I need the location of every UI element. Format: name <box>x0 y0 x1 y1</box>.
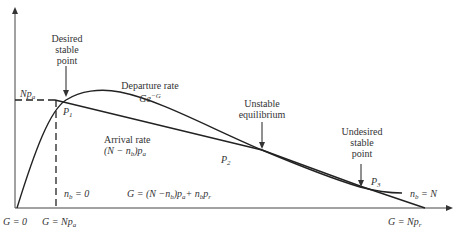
p1-label: P1 <box>63 106 73 121</box>
g-npa-label: G = Npa <box>42 216 76 231</box>
p3-label: P3 <box>371 176 381 191</box>
arrival-rate-label: Arrival rate (N − nb)pa <box>104 134 150 160</box>
undesired-stable-point-label: Undesired stable point <box>336 126 388 159</box>
nb-equals-0-label: nb = 0 <box>64 188 89 203</box>
desired-line-2: stable <box>44 44 90 55</box>
np-a-label: Npa <box>20 88 35 103</box>
departure-title: Departure rate <box>110 80 190 91</box>
unstable-equilibrium-label: Unstable equilibrium <box>226 98 298 120</box>
p2-label: P2 <box>221 154 231 169</box>
departure-formula: Ge−G <box>110 91 190 104</box>
arrival-formula: (N − nb)pa <box>104 145 150 160</box>
g-npr-label: G = Npr <box>388 216 421 231</box>
g-zero-label: G = 0 <box>3 216 27 227</box>
desired-line-3: point <box>44 55 90 66</box>
arrival-title: Arrival rate <box>104 134 150 145</box>
departure-rate-label: Departure rate Ge−G <box>110 80 190 104</box>
g-equation-label: G = (N −nb)pa+ nbpr <box>127 188 211 203</box>
desired-stable-point-label: Desired stable point <box>44 33 90 66</box>
nb-equals-n-label: nb = N <box>410 188 437 203</box>
desired-line-1: Desired <box>44 33 90 44</box>
